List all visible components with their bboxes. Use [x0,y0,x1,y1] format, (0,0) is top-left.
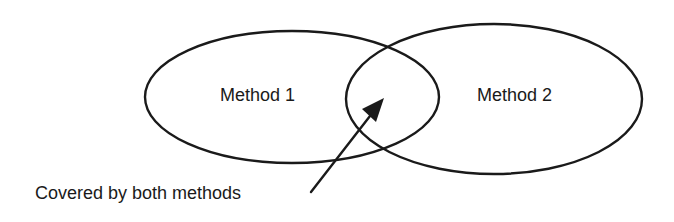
intersection-annotation: Covered by both methods [35,184,241,202]
set-label-method-2: Method 2 [477,86,552,104]
arrow-shaft [311,116,370,192]
arrowhead-icon [362,98,384,122]
set-label-method-1: Method 1 [220,86,295,104]
venn-diagram: Method 1 Method 2 Covered by both method… [0,0,674,222]
